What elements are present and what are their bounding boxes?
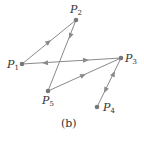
edges [22,20,121,107]
arrow-p1-p3-icon [83,58,89,63]
arrow-p5-p3-icon [80,72,88,79]
node-p2 [74,18,79,23]
edge-p3-p4 [97,58,121,107]
node-p4 [95,105,100,110]
arrow-p3-p1-icon [42,60,48,65]
arrow-p3-p4-icon [102,87,109,95]
label-p2: P2 [69,3,82,17]
node-p1 [20,62,25,67]
graph-diagram: P1 P2 P3 P4 P5 (b) [0,0,144,141]
label-p4: P4 [102,101,115,115]
node-p3 [119,56,124,61]
caption: (b) [61,117,77,130]
edge-p1-p3 [22,58,121,64]
arrow-p4-p3-icon [110,70,117,78]
arrowheads [42,33,117,95]
label-p5: P5 [41,94,54,108]
node-p5 [46,89,51,94]
label-p3: P3 [124,52,137,66]
arrow-p2-p5-icon [67,33,74,40]
label-p1: P1 [6,58,19,72]
